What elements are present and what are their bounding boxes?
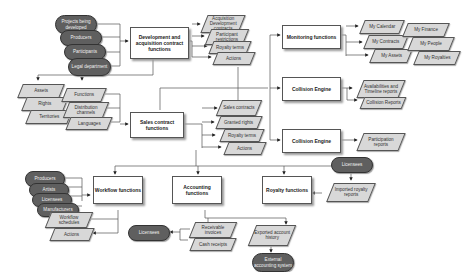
royalty-output-exported[interactable]: Exported account history [248,225,296,246]
royalty-source-licensees[interactable]: Licensees [331,157,373,173]
source-legal[interactable]: Legal department [68,58,111,76]
accounting-function[interactable]: Accounting functions [172,176,222,204]
dev-output-actions[interactable]: Actions [212,52,255,65]
royalty-input-imported[interactable]: Imported royalty reports [326,183,376,202]
input-distribution[interactable]: Distribution channels [63,102,109,118]
sales-output-actions[interactable]: Actions [223,142,266,155]
output-my-finance[interactable]: My Finance [402,23,450,37]
monitoring-function[interactable]: Monitoring functions [282,25,341,49]
sales-output-rights[interactable]: Granted rights [215,116,262,129]
output-my-assets[interactable]: My Assets [369,49,413,63]
dev-acquisition-function[interactable]: Development and acquisition contract fun… [130,27,189,59]
collision-engine-2[interactable]: Collision Engine [282,129,341,153]
input-assets[interactable]: Assets [17,84,65,98]
output-my-people[interactable]: My People [407,37,455,51]
acct-target-licensees[interactable]: Licensees [128,225,170,241]
output-my-calendar[interactable]: My Calendar [359,20,405,34]
collision-engine-1[interactable]: Collision Engine [282,77,341,101]
sales-function[interactable]: Sales contract functions [130,112,184,138]
output-collision-reports[interactable]: Collision Reports [360,97,407,109]
input-languages[interactable]: Languages [65,117,112,130]
sales-output-contracts[interactable]: Sales contracts [216,100,262,116]
output-my-royalties[interactable]: My Royalties [413,51,461,65]
output-participation[interactable]: Participation reports [356,133,405,151]
output-availabilities[interactable]: Availabilities and Timeline reports [356,80,405,98]
output-my-contracts[interactable]: My Contracts [363,35,409,49]
input-functions[interactable]: Functions [61,88,107,102]
wf-output-schedules[interactable]: Workflow schedules [45,212,93,228]
royalty-target-external[interactable]: External accounting system [252,253,294,272]
wf-output-actions[interactable]: Actions [49,228,94,241]
sales-output-royalty[interactable]: Royalty terms [219,129,264,142]
acct-output-cash[interactable]: Cash receipts [189,238,236,251]
royalty-function[interactable]: Royalty functions [262,176,312,204]
acct-output-invoices[interactable]: Receivable invoices [189,222,237,238]
workflow-function[interactable]: Workflow functions [93,176,143,204]
